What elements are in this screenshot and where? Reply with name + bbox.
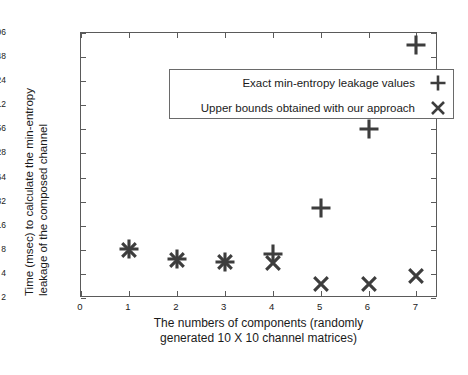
x-tick-label: 2: [173, 301, 178, 312]
data-point-cross: [167, 250, 187, 270]
x-tick-mark-top: [225, 33, 226, 38]
data-point-cross: [119, 240, 139, 260]
x-tick-label: 4: [269, 301, 274, 312]
y-tick-mark: [81, 129, 86, 130]
y-tick-mark-right: [431, 153, 436, 154]
legend-label-upper-bounds: Upper bounds obtained with our approach: [170, 102, 423, 114]
y-tick-label: 64: [0, 172, 6, 182]
legend-item-upper-bounds: Upper bounds obtained with our approach: [170, 95, 453, 120]
y-tick-mark: [81, 178, 86, 179]
y-tick-label: 1024: [0, 75, 6, 85]
data-point-plus: [358, 118, 380, 140]
y-tick-label: 8: [1, 244, 6, 254]
y-tick-label: 4096: [0, 27, 6, 37]
y-tick-mark: [81, 57, 86, 58]
y-tick-mark: [81, 298, 86, 299]
y-tick-mark: [81, 105, 86, 106]
y-tick-label: 32: [0, 196, 6, 206]
x-tick-label: 0: [77, 301, 82, 312]
y-tick-mark: [81, 202, 86, 203]
y-axis-title-line1: Time (msec) to calculate the min-entropy: [22, 88, 36, 296]
x-tick-mark: [81, 291, 82, 296]
y-axis-title: Time (msec) to calculate the min-entropy…: [0, 0, 58, 300]
legend-item-exact: Exact min-entropy leakage values: [170, 70, 453, 95]
y-tick-mark-right: [431, 202, 436, 203]
data-point-cross: [359, 274, 379, 294]
data-point-plus: [310, 197, 332, 219]
y-tick-mark-right: [431, 274, 436, 275]
legend-label-exact: Exact min-entropy leakage values: [170, 77, 423, 89]
x-tick-label: 5: [317, 301, 322, 312]
x-tick-mark: [225, 291, 226, 296]
x-axis-title: The numbers of components (randomly gene…: [80, 316, 437, 346]
y-tick-label: 256: [0, 123, 6, 133]
data-point-plus: [405, 34, 427, 56]
y-tick-mark-right: [431, 298, 436, 299]
x-tick-label: 7: [413, 301, 418, 312]
legend: Exact min-entropy leakage values Upper b…: [169, 69, 454, 119]
data-point-cross: [215, 252, 235, 272]
y-axis-title-line2: leakage of the composed channel: [36, 124, 50, 296]
y-tick-label: 2: [1, 292, 6, 302]
y-tick-mark-right: [431, 33, 436, 34]
y-tick-label: 512: [0, 99, 6, 109]
x-tick-mark: [416, 291, 417, 296]
y-tick-mark: [81, 226, 86, 227]
y-tick-mark-right: [431, 57, 436, 58]
data-point-cross: [311, 274, 331, 294]
y-tick-label: 16: [0, 220, 6, 230]
y-tick-mark-right: [431, 226, 436, 227]
y-tick-mark-right: [431, 129, 436, 130]
x-tick-mark-top: [81, 33, 82, 38]
x-tick-label: 1: [125, 301, 130, 312]
x-tick-label: 3: [221, 301, 226, 312]
y-tick-mark: [81, 81, 86, 82]
x-tick-mark-top: [177, 33, 178, 38]
y-tick-mark: [81, 274, 86, 275]
data-point-cross: [263, 253, 283, 273]
data-point-cross: [406, 266, 426, 286]
y-tick-mark: [81, 153, 86, 154]
x-tick-mark-top: [369, 33, 370, 38]
plot-area: Exact min-entropy leakage values Upper b…: [80, 32, 437, 297]
x-axis-title-line1: The numbers of components (randomly: [80, 316, 437, 331]
plus-marker-icon: [423, 74, 453, 92]
y-tick-label: 4: [1, 268, 6, 278]
y-tick-mark-right: [431, 178, 436, 179]
x-tick-mark-top: [129, 33, 130, 38]
y-tick-label: 128: [0, 147, 6, 157]
x-axis-title-line2: generated 10 X 10 channel matrices): [80, 331, 437, 346]
x-tick-mark: [177, 291, 178, 296]
x-tick-mark: [129, 291, 130, 296]
y-tick-mark-right: [431, 250, 436, 251]
cross-marker-icon: [423, 99, 453, 117]
x-tick-mark-top: [273, 33, 274, 38]
x-tick-mark-top: [321, 33, 322, 38]
y-tick-mark: [81, 250, 86, 251]
chart-page: Time (msec) to calculate the min-entropy…: [0, 0, 468, 375]
y-tick-label: 2048: [0, 51, 6, 61]
x-tick-label: 6: [365, 301, 370, 312]
x-tick-mark: [273, 291, 274, 296]
